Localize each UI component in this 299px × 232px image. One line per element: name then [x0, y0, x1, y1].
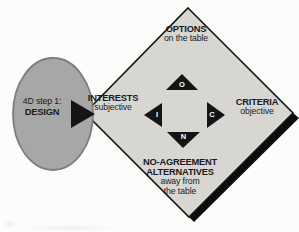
no-agreement-label: NO-AGREEMENT ALTERNATIVES away from the … [143, 157, 217, 196]
marker-letter-n: N [181, 133, 186, 141]
marker-letter-i: I [156, 111, 158, 119]
options-subtitle: on the table [164, 34, 208, 44]
marker-letter-c: C [209, 111, 214, 119]
negotiation-design-diagram: 4D step 1: DESIGN OPTIONS on the table I… [0, 0, 299, 232]
interests-subtitle: subjective [88, 103, 138, 113]
design-step-line1: 4D step 1: [23, 97, 62, 107]
marker-letter-o: O [179, 81, 185, 89]
criteria-subtitle: objective [236, 107, 278, 117]
design-step-line2: DESIGN [23, 107, 62, 117]
no-agreement-title-line1: NO-AGREEMENT [143, 157, 217, 167]
no-agreement-subtitle-line2: the table [143, 187, 217, 197]
design-step-label: 4D step 1: DESIGN [23, 97, 62, 117]
criteria-label: CRITERIA objective [236, 97, 278, 117]
interests-label: INTERESTS subjective [88, 93, 138, 113]
options-label: OPTIONS on the table [164, 24, 208, 44]
